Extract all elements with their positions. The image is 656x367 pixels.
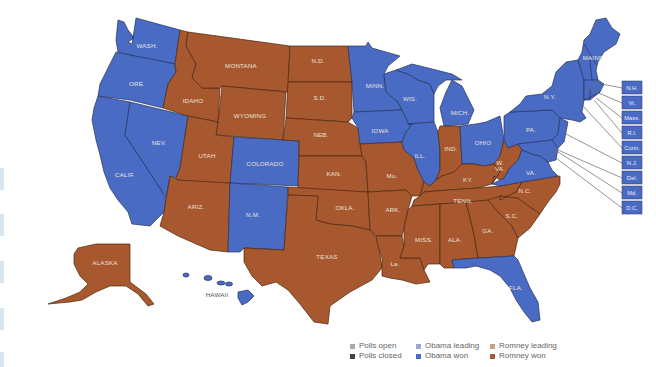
callout-nj[interactable]: N.J.	[622, 156, 642, 169]
romney-leading-swatch-icon	[490, 344, 495, 349]
state-montana[interactable]	[186, 32, 290, 92]
legend-polls-open: Polls open	[350, 341, 408, 351]
callout-md[interactable]: Md.	[622, 186, 642, 199]
obama-won-swatch-icon	[416, 354, 421, 359]
legend-row-2: Polls closed Obama won Romney won	[350, 351, 557, 361]
callout-dc[interactable]: D.C.	[622, 201, 642, 214]
state-colorado[interactable]	[230, 137, 299, 186]
state-south-dakota[interactable]	[286, 82, 352, 122]
state-new-mexico[interactable]	[228, 183, 288, 252]
state-florida[interactable]	[452, 256, 540, 322]
callout-nh[interactable]: N.H.	[622, 81, 642, 94]
legend-obama-leading: Obama leading	[416, 341, 482, 351]
legend-row-1: Polls open Obama leading Romney leading	[350, 341, 557, 351]
callout-ri[interactable]: R.I.	[622, 126, 642, 139]
legend-polls-closed: Polls closed	[350, 351, 408, 361]
label-hawaii: HAWAII	[206, 291, 229, 298]
legend-romney-leading: Romney leading	[490, 341, 557, 351]
legend-obama-won: Obama won	[416, 351, 482, 361]
polls-open-swatch-icon	[350, 344, 355, 349]
state-alaska[interactable]	[48, 244, 154, 306]
state-north-dakota[interactable]	[288, 46, 352, 82]
state-new-england[interactable]	[578, 18, 620, 100]
state-hawaii[interactable]	[183, 273, 254, 305]
us-election-map: WASH. ORE. CALIF. NEV. IDAHO MONTANA WYO…	[0, 0, 656, 367]
romney-won-swatch-icon	[490, 354, 495, 359]
obama-leading-swatch-icon	[416, 344, 421, 349]
state-arizona[interactable]	[160, 176, 230, 252]
legend: Polls open Obama leading Romney leading …	[350, 341, 557, 361]
legend-romney-won: Romney won	[490, 351, 546, 361]
callout-mass[interactable]: Mass.	[622, 111, 642, 124]
state-kansas[interactable]	[298, 156, 368, 192]
callout-del[interactable]: Del.	[622, 171, 642, 184]
callout-conn[interactable]: Conn.	[622, 141, 642, 154]
state-wyoming[interactable]	[216, 86, 286, 140]
callout-vt[interactable]: Vt.	[622, 96, 642, 109]
polls-closed-swatch-icon	[350, 354, 355, 359]
